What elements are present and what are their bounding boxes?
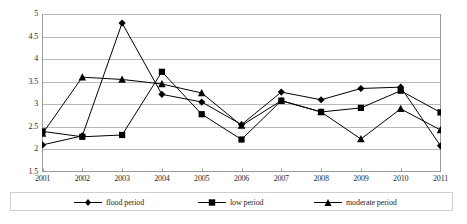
x-tick-label: 2004	[154, 174, 169, 184]
x-tick-label: 2007	[274, 174, 289, 184]
y-tick-label: 2	[4, 145, 38, 153]
series-layer	[42, 19, 441, 149]
data-point	[398, 88, 404, 94]
legend-label-moderate-period: moderate period	[346, 198, 397, 207]
data-point	[119, 132, 125, 138]
series-moderate-period	[42, 73, 441, 142]
data-point	[79, 134, 85, 140]
x-tick-label: 2001	[35, 174, 50, 184]
data-point	[357, 85, 364, 92]
data-point	[119, 19, 126, 26]
legend-label-flood-period: flood period	[106, 198, 144, 207]
data-point	[397, 105, 405, 112]
x-axis: 2001200220032004200520062007200820092010…	[42, 174, 441, 188]
legend-marker-diamond-icon	[73, 197, 103, 208]
line-chart: 1.522.533.544.55 20012002200320042005200…	[0, 0, 467, 224]
y-tick-label: 3.5	[4, 78, 38, 86]
plot-svg	[42, 14, 441, 172]
x-tick-label: 2009	[353, 174, 368, 184]
legend-item-low-period[interactable]: low period	[197, 196, 263, 209]
y-tick-label: 2.5	[4, 123, 38, 131]
gridlines	[42, 15, 441, 150]
plot-area	[42, 14, 441, 172]
data-point	[437, 109, 441, 115]
x-tick-label: 2006	[234, 174, 249, 184]
x-tick-label: 2002	[75, 174, 90, 184]
data-point	[158, 91, 165, 98]
legend-item-flood-period[interactable]: flood period	[73, 196, 144, 209]
y-tick-label: 4.5	[4, 33, 38, 41]
legend-marker-square-icon	[197, 197, 227, 208]
series-flood-period	[42, 19, 441, 149]
y-axis: 1.522.533.544.55	[0, 14, 38, 172]
data-point	[238, 136, 244, 142]
y-tick-label: 5	[4, 10, 38, 18]
x-tick-label: 2005	[194, 174, 209, 184]
legend-label-low-period: low period	[230, 198, 263, 207]
x-tick-label: 2011	[433, 174, 448, 184]
legend-item-moderate-period[interactable]: moderate period	[313, 196, 397, 209]
data-point	[357, 135, 365, 142]
x-tick-label: 2008	[313, 174, 328, 184]
data-point	[79, 73, 87, 80]
chart-legend: flood period low period moderate period	[10, 192, 453, 211]
y-tick-label: 3	[4, 100, 38, 108]
data-point	[318, 96, 325, 103]
legend-marker-triangle-icon	[313, 197, 343, 208]
data-point	[199, 111, 205, 117]
y-tick-label: 1.5	[4, 168, 38, 176]
data-point	[159, 69, 165, 75]
y-tick-label: 4	[4, 55, 38, 63]
x-tick-label: 2003	[114, 174, 129, 184]
x-tick-label: 2010	[393, 174, 408, 184]
data-point	[42, 141, 46, 148]
data-point	[358, 105, 364, 111]
